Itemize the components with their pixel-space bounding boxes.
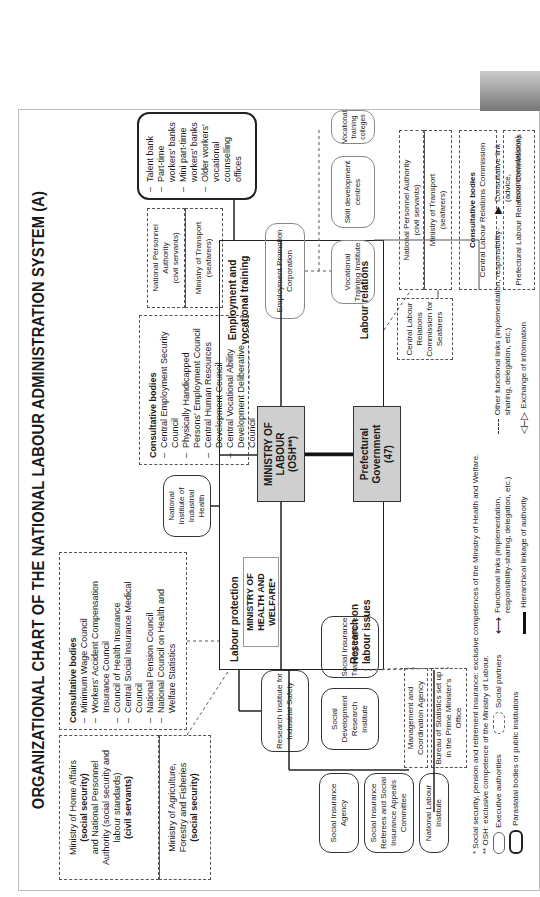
quadrant-employment: Employment and vocational training — [227, 250, 251, 350]
list-item: Mini part-time workers' banks — [178, 118, 200, 192]
social-insurance-training-institute: Social Insurance Training Institute — [321, 616, 379, 678]
npa-box-right: National Personnel Authority (civil serv… — [399, 130, 424, 290]
legend-consultative: ▶ Consultative link (advice, recommendat… — [493, 114, 523, 214]
parastatal-swatch-icon — [509, 830, 523, 854]
agriculture-box: Ministry of Agriculture, Forestry and Fi… — [159, 735, 211, 880]
national-labour-institute: National Labour Institute — [419, 773, 449, 853]
list-item: Older workers' vocational counselling of… — [200, 118, 244, 192]
quadrant-labour-protection: Labour protection — [229, 572, 241, 662]
executive-swatch-icon — [493, 832, 505, 854]
social-insurance-referees: Social Insurance Referees and Social Ins… — [364, 773, 414, 853]
double-arrow-icon: ⟷ — [493, 617, 503, 634]
list-item: Physically Handicapped Persons' Employme… — [181, 322, 203, 458]
industrial-health-institute: National Institute of Industrial Health — [163, 475, 211, 537]
list-item: National Council on Health and Welfare S… — [156, 559, 178, 723]
legend-functional: ⟷ Functional links (implementation, resp… — [493, 454, 513, 634]
list-item: Council of Health Insurance — [112, 559, 123, 723]
prefectural-government-box: Prefectural Government (47) — [353, 406, 401, 502]
institute-industrial-safety: Research Institute for Industrial Safety — [261, 670, 309, 752]
skill-development-centres: Skill development centres — [331, 156, 375, 228]
social-development-research-institute: Social Development Research Institute — [321, 688, 379, 750]
list-item: Part-time workers' banks — [156, 118, 178, 192]
mot-box-top: Ministry of Transport (seafarers) — [185, 208, 223, 308]
consultative-bodies-protection: Consultative bodies Minimum Wage Council… — [59, 552, 187, 730]
mot-box-right: Ministry of Transport (seafarers) — [424, 130, 452, 290]
social-partners-swatch-icon — [493, 712, 505, 734]
footnote-2: ** OSH: exclusive competence of the Mini… — [481, 434, 491, 854]
legend: Executive authorities Social partners Pa… — [493, 114, 537, 854]
hollow-arrows-icon: ◁–▷ — [519, 412, 529, 434]
list-item: Minimum Wage Council — [79, 559, 90, 723]
footnote-1: * Social security, pension and retiremen… — [471, 434, 481, 854]
home-affairs-link — [187, 670, 229, 735]
home-affairs-box: Ministry of Home Affairs (social securit… — [59, 735, 159, 880]
bureau-of-statistics-box: Bureau of Statistics set up in the Prime… — [431, 668, 467, 768]
consultative-arrow-icon: ▶ — [493, 206, 503, 214]
list-item: Workers' Accident Compensation Insurance… — [90, 559, 112, 723]
talent-bank-box: Talent bank Part-time workers' banks Min… — [137, 112, 257, 200]
thick-line-icon — [523, 612, 526, 634]
vocational-training-colleges: Vocational training colleges — [331, 110, 375, 144]
employment-promotion-corporation: Employment Promotion Corporation — [265, 223, 305, 319]
list-item: Central Employment Security Council — [159, 322, 181, 458]
social-insurance-agency: Social Insurance Agency — [319, 773, 359, 853]
list-item: National Pension Council — [145, 559, 156, 723]
chart-title: ORGANIZATIONAL CHART OF THE NATIONAL LAB… — [29, 165, 49, 836]
chart-page: ORGANIZATIONAL CHART OF THE NATIONAL LAB… — [18, 109, 540, 891]
legend-hierarchical: Hierarchical linkage of authority — [519, 454, 529, 634]
legend-exchange: ◁–▷ Exchange of information — [519, 254, 529, 434]
ministry-of-labour-box: MINISTRY OF LABOUR (OSH**) — [257, 406, 305, 502]
legend-parastatal: Parastatal bodies or public institutions — [509, 654, 523, 854]
scan-shadow — [480, 71, 540, 111]
list-item: Talent bank — [145, 118, 156, 192]
management-coordination-agency-box: Management and Coordination Agency — [404, 668, 428, 768]
consultative-heading: Consultative bodies — [68, 559, 79, 723]
ministry-of-health-box: MINISTRY OF HEALTH AND WELFARE* — [243, 557, 279, 647]
legend-other-functional: Other functional links (implementation, … — [493, 214, 513, 434]
dashed-line-icon — [498, 419, 499, 434]
document-page-rotated: ORGANIZATIONAL CHART OF THE NATIONAL LAB… — [0, 0, 540, 897]
clrc-seafarers-box: Central Labour Relations Commission for … — [397, 298, 453, 360]
footnotes: * Social security, pension and retiremen… — [471, 434, 491, 854]
vocational-training-institute: Vocational Training Institute — [331, 240, 375, 304]
npa-box-top: National Personnel Authority (civil serv… — [147, 208, 185, 308]
list-item: Central Social Insurance Medical Council — [123, 559, 145, 723]
